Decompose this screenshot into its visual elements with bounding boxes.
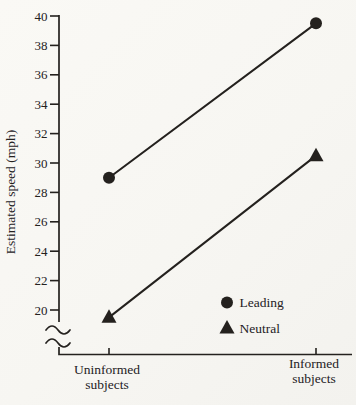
y-axis-break-squiggle-1 (46, 326, 70, 334)
y-tick-label: 38 (35, 38, 48, 53)
y-tick-label: 26 (35, 214, 49, 229)
series-line-neutral (109, 156, 316, 318)
y-axis-break-squiggle-2 (46, 339, 70, 347)
y-tick-label: 40 (35, 9, 48, 24)
y-tick-label: 28 (35, 185, 48, 200)
estimated-speed-figure: 2022242628303234363840Uninformedsubjects… (0, 0, 356, 405)
x-category-label: subjects (292, 371, 336, 386)
x-category-label: subjects (85, 377, 129, 392)
x-category-label: Informed (289, 356, 339, 371)
y-tick-label: 22 (35, 273, 48, 288)
data-point-circle-leading (103, 172, 115, 184)
y-tick-label: 20 (35, 303, 48, 318)
y-axis-title: Estimated speed (mph) (3, 130, 18, 254)
legend-circle-icon (221, 297, 233, 309)
data-point-triangle-neutral (309, 148, 324, 162)
x-category-label: Uninformed (74, 362, 140, 377)
y-tick-label: 34 (35, 97, 49, 112)
legend-label-neutral: Neutral (240, 321, 281, 336)
estimated-speed-line-chart: 2022242628303234363840Uninformedsubjects… (0, 0, 356, 405)
data-point-triangle-neutral (102, 309, 117, 323)
y-tick-label: 36 (35, 67, 49, 82)
y-tick-label: 30 (35, 156, 48, 171)
series-line-leading (109, 23, 316, 177)
legend-triangle-icon (220, 320, 235, 334)
y-tick-label: 24 (35, 244, 49, 259)
data-point-circle-leading (310, 17, 322, 29)
y-tick-label: 32 (35, 126, 48, 141)
x-axis-line (59, 347, 352, 355)
legend-label-leading: Leading (240, 295, 284, 310)
